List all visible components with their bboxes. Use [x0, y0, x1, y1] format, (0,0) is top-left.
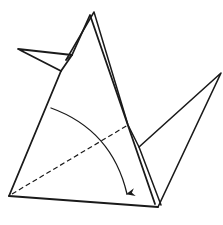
neck-back-edge — [66, 12, 161, 205]
body-base-edge — [9, 196, 158, 207]
valley-fold-line — [12, 125, 128, 194]
tail-flap — [139, 73, 221, 207]
origami-diagram: Valley fold the flap down along the dash… — [0, 0, 223, 225]
fold-direction-arrow — [51, 108, 127, 194]
neck-front-edge — [9, 15, 155, 204]
fold-diagram-svg — [0, 0, 223, 225]
